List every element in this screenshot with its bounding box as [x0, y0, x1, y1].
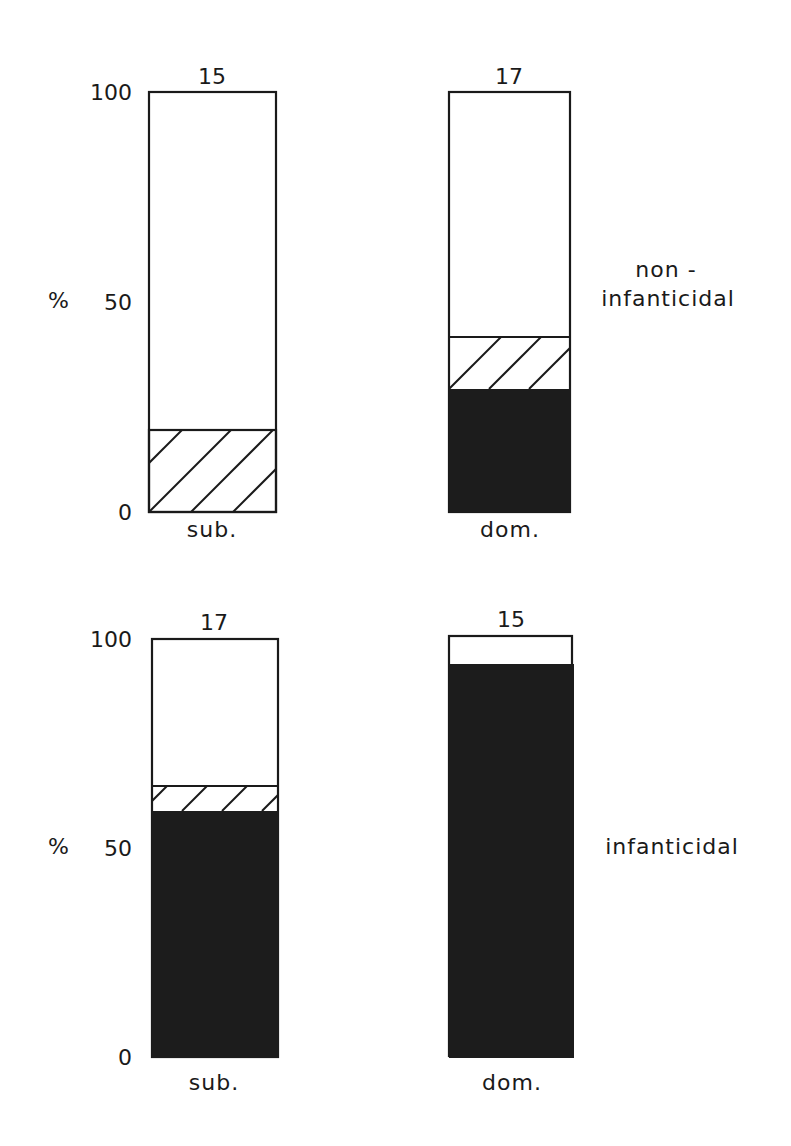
y-tick-100: 100: [90, 627, 132, 652]
sample-size: 15: [198, 64, 226, 89]
row-label-line1: non -: [635, 257, 696, 282]
row-label-line2: infanticidal: [601, 286, 735, 311]
y-axis-label: %: [48, 288, 69, 313]
segment-black: [449, 389, 571, 512]
segment-black: [152, 811, 279, 1058]
segment-black: [449, 664, 574, 1058]
sample-size: 17: [495, 64, 523, 89]
row-label: infanticidal: [605, 834, 739, 859]
y-tick-100: 100: [90, 80, 132, 105]
y-tick-0: 0: [118, 500, 132, 525]
y-tick-50: 50: [104, 836, 132, 861]
bar-dom: 17 dom.: [449, 64, 581, 542]
y-axis-label: %: [48, 834, 69, 859]
panel-infanticidal: 100 50 0 % 17 sub. 15 dom.: [48, 607, 739, 1095]
bar-dom: 15 dom.: [449, 607, 574, 1095]
category-label: sub.: [189, 1070, 239, 1095]
category-label: dom.: [482, 1070, 542, 1095]
bar-sub: 15 sub.: [100, 64, 323, 542]
figure: 100 50 0 % 15 sub. 17: [0, 0, 791, 1146]
category-label: sub.: [187, 517, 237, 542]
y-tick-50: 50: [104, 290, 132, 315]
sample-size: 17: [200, 610, 228, 635]
category-label: dom.: [480, 517, 540, 542]
y-tick-0: 0: [118, 1045, 132, 1070]
bar-sub: 17 sub.: [142, 610, 287, 1095]
sample-size: 15: [497, 607, 525, 632]
panel-non-infanticidal: 100 50 0 % 15 sub. 17: [48, 64, 735, 542]
